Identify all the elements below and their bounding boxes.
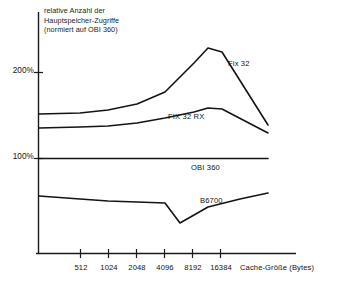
series-line-fix32rx (39, 108, 268, 133)
series-label-fix32: Fix 32 (228, 59, 250, 68)
series-label-fix32rx: FIX 32 RX (168, 112, 204, 121)
series-line-b6700 (39, 193, 268, 223)
chart-plot-area (0, 0, 338, 281)
x-tick-label-16384: 16384 (210, 263, 232, 272)
y-axis-title: relative Anzahl der Hauptspeicher-Zugrif… (44, 6, 119, 35)
x-axis-caption: Cache-Größe (Bytes) (240, 263, 314, 272)
y-axis-title-line-2: Hauptspeicher-Zugriffe (44, 16, 119, 26)
x-tick-label-2048: 2048 (128, 263, 145, 272)
x-tick-label-512: 512 (75, 263, 88, 272)
y-axis-title-line-3: (normiert auf OBI 360) (44, 25, 119, 35)
series-label-b6700: B6700 (200, 196, 223, 205)
y-tick-label-100: 100% (2, 152, 34, 161)
x-tick-label-1024: 1024 (100, 263, 117, 272)
y-axis-title-line-1: relative Anzahl der (44, 6, 119, 16)
x-tick-label-4096: 4096 (156, 263, 173, 272)
series-label-obi360: OBI 360 (191, 163, 220, 172)
chart-container: relative Anzahl der Hauptspeicher-Zugrif… (0, 0, 338, 281)
x-tick-label-8192: 8192 (184, 263, 201, 272)
y-tick-label-200: 200% (2, 66, 34, 75)
